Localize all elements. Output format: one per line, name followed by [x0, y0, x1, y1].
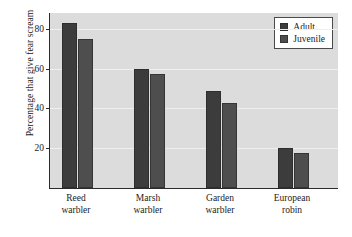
bar-adult	[62, 23, 77, 188]
bar-adult	[206, 91, 221, 188]
bar-chart-figure: Percentage that give fear scream Adult J…	[0, 0, 352, 237]
x-category-label-line: warbler	[36, 205, 116, 217]
y-tick-mark	[46, 108, 50, 109]
x-category-label-line: warbler	[180, 205, 260, 217]
bar-group	[134, 13, 165, 188]
y-tick-mark	[46, 29, 50, 30]
x-category-label-line: warbler	[108, 205, 188, 217]
x-category-label: Gardenwarbler	[180, 193, 260, 216]
plot-area: Adult Juvenile 20406080	[49, 13, 338, 189]
bar-adult	[134, 69, 149, 188]
bar-group	[206, 13, 237, 188]
y-tick-mark	[46, 69, 50, 70]
y-tick-label: 40	[35, 103, 45, 113]
bar-adult	[278, 148, 293, 188]
bar-juvenile	[78, 39, 93, 188]
bar-group	[278, 13, 309, 188]
y-tick-label: 20	[35, 143, 45, 153]
y-tick-label: 60	[35, 64, 45, 74]
x-category-label: Marshwarbler	[108, 193, 188, 216]
bar-juvenile	[222, 103, 237, 188]
x-category-label: Reedwarbler	[36, 193, 116, 216]
y-tick-label: 80	[35, 24, 45, 34]
x-category-label-line: robin	[252, 205, 332, 217]
x-category-label-line: Garden	[180, 193, 260, 205]
bar-group	[62, 13, 93, 188]
x-category-label-line: Marsh	[108, 193, 188, 205]
x-category-label-line: European	[252, 193, 332, 205]
x-category-label-line: Reed	[36, 193, 116, 205]
y-axis-title: Percentage that give fear scream	[25, 0, 35, 158]
bar-juvenile	[294, 153, 309, 188]
bar-juvenile	[150, 74, 165, 188]
y-tick-mark	[46, 148, 50, 149]
x-category-label: Europeanrobin	[252, 193, 332, 216]
